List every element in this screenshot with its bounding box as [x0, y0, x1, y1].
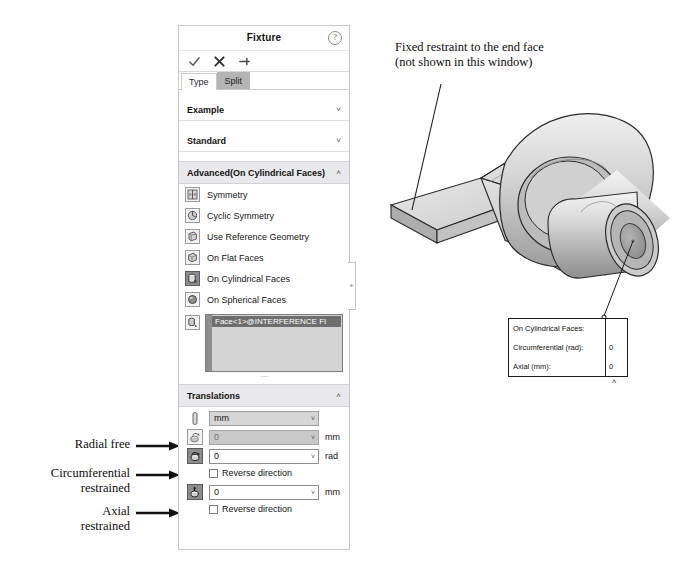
option-cyclic-symmetry-label: Cyclic Symmetry [207, 211, 274, 221]
spacer [179, 121, 349, 130]
section-translations[interactable]: Translations ˄ [179, 384, 349, 407]
units-value: mm [214, 413, 229, 423]
radial-value-input[interactable]: 0 ˅ [209, 430, 319, 445]
section-advanced[interactable]: Advanced(On Cylindrical Faces) ˄ [179, 161, 349, 184]
callout-row: On Cylindrical Faces: [509, 319, 627, 338]
pin-button[interactable] [238, 55, 251, 68]
panel-header: Fixture ? [179, 26, 349, 51]
axial-unit-label: mm [325, 487, 343, 497]
face-selection-area: Face<1>@INTERFERENCE FI [179, 310, 349, 372]
selected-face-entry[interactable]: Face<1>@INTERFERENCE FI [212, 316, 341, 327]
selected-faces-list[interactable]: Face<1>@INTERFERENCE FI [205, 314, 343, 372]
axial-value-input[interactable]: 0 ˅ [209, 485, 319, 500]
callout-row: Axial (mm): 0 [509, 357, 627, 376]
circumferential-unit-label: rad [325, 451, 343, 461]
tab-type[interactable]: Type [181, 73, 217, 90]
axial-reverse-row[interactable]: Reverse direction [179, 500, 349, 514]
chevron-up-icon[interactable]: ˄ [336, 168, 341, 177]
section-example[interactable]: Example ˅ [179, 99, 349, 121]
model-arm-web [481, 163, 585, 270]
panel-expand-tab[interactable] [348, 262, 356, 310]
arrow-axial-icon [136, 508, 180, 518]
chevron-down-icon[interactable]: ˅ [311, 415, 315, 422]
callout-collapse-chevron-up-icon[interactable]: ^ [612, 378, 616, 388]
option-use-reference-geometry-label: Use Reference Geometry [207, 232, 309, 242]
accept-button[interactable] [188, 55, 201, 68]
section-advanced-label: Advanced(On Cylindrical Faces) [187, 168, 325, 178]
reference-geometry-icon [185, 229, 200, 244]
option-cyclic-symmetry[interactable]: Cyclic Symmetry [179, 205, 349, 226]
option-symmetry-label: Symmetry [207, 190, 248, 200]
option-on-cylindrical-faces[interactable]: On Cylindrical Faces [179, 268, 349, 289]
help-circle-icon[interactable]: ? [328, 31, 342, 45]
face-picker-icon[interactable] [185, 315, 200, 330]
cyclic-symmetry-icon [185, 208, 200, 223]
callout-row: Circumferential (rad): 0 [509, 338, 627, 357]
callout-label: Circumferential (rad): [509, 343, 605, 352]
panel-title: Fixture [179, 32, 349, 43]
annotation-axial-line2: restrained [10, 519, 130, 534]
radial-unit-label: mm [325, 432, 343, 442]
cancel-button[interactable] [213, 55, 226, 68]
tab-split[interactable]: Split [217, 72, 251, 89]
callout-label: Axial (mm): [509, 362, 605, 371]
radial-icon[interactable] [187, 429, 203, 445]
model-flat-plate [391, 178, 535, 243]
annotation-fixed-restraint-line2: (not shown in this window) [395, 55, 645, 70]
annotation-fixed-restraint: Fixed restraint to the end face (not sho… [395, 40, 645, 70]
axial-icon[interactable] [187, 484, 203, 500]
spherical-faces-icon [185, 292, 200, 307]
section-translations-label: Translations [187, 391, 240, 401]
cylindrical-faces-icon [185, 271, 200, 286]
annotation-axial-line1: Axial [10, 504, 130, 519]
annotation-radial-free-label: Radial free [75, 437, 130, 451]
option-on-flat-faces-label: On Flat Faces [207, 253, 264, 263]
flat-faces-icon [185, 250, 200, 265]
symmetry-icon [185, 187, 200, 202]
grip-dot-icon [350, 284, 353, 287]
chevron-down-icon[interactable]: ˅ [311, 453, 315, 460]
axial-reverse-checkbox[interactable] [209, 505, 218, 514]
chevron-down-icon[interactable]: ˅ [311, 434, 315, 441]
spacer [179, 152, 349, 161]
circumferential-value: 0 [214, 451, 219, 461]
radial-row: 0 ˅ mm [179, 426, 349, 445]
section-example-label: Example [187, 105, 224, 115]
chevron-down-icon[interactable]: ˅ [336, 136, 341, 145]
callout-label: On Cylindrical Faces: [509, 324, 605, 333]
fixture-property-manager-panel: Fixture ? Type Split Example ˅ Standard … [178, 25, 350, 550]
chevron-up-icon[interactable]: ˄ [336, 391, 341, 400]
model-3d-viewport [385, 100, 675, 330]
resize-grip-icon[interactable]: ⋯ [179, 373, 349, 381]
units-icon [187, 410, 203, 426]
chevron-down-icon[interactable]: ˅ [311, 489, 315, 496]
option-on-flat-faces[interactable]: On Flat Faces [179, 247, 349, 268]
annotation-radial-free: Radial free [20, 437, 130, 452]
annotation-circumferential-restrained: Circumferential restrained [10, 466, 130, 496]
option-on-spherical-faces[interactable]: On Spherical Faces [179, 289, 349, 310]
option-symmetry[interactable]: Symmetry [179, 184, 349, 205]
model-hub [500, 114, 654, 267]
circumferential-reverse-label: Reverse direction [222, 468, 292, 478]
units-row: mm ˅ [179, 407, 349, 426]
chevron-down-icon[interactable]: ˅ [336, 105, 341, 114]
circumferential-reverse-row[interactable]: Reverse direction [179, 464, 349, 478]
callout-value [605, 319, 627, 338]
model-cylinder-boss [548, 170, 670, 283]
circumferential-icon[interactable] [187, 448, 203, 464]
units-select[interactable]: mm ˅ [209, 411, 319, 426]
circumferential-row: 0 ˅ rad [179, 445, 349, 464]
callout-value: 0 [605, 338, 627, 357]
circumferential-reverse-checkbox[interactable] [209, 469, 218, 478]
axial-row: 0 ˅ mm [179, 478, 349, 500]
annotation-fixed-restraint-line1: Fixed restraint to the end face [395, 40, 645, 55]
section-standard[interactable]: Standard ˅ [179, 130, 349, 152]
callout-value: 0 [605, 357, 627, 376]
option-on-cylindrical-faces-label: On Cylindrical Faces [207, 274, 290, 284]
circumferential-value-input[interactable]: 0 ˅ [209, 449, 319, 464]
radial-value: 0 [214, 432, 219, 442]
arrow-circumferential-icon [136, 470, 180, 480]
annotation-circumferential-line2: restrained [10, 481, 130, 496]
panel-tabs: Type Split [179, 72, 349, 90]
option-use-reference-geometry[interactable]: Use Reference Geometry [179, 226, 349, 247]
